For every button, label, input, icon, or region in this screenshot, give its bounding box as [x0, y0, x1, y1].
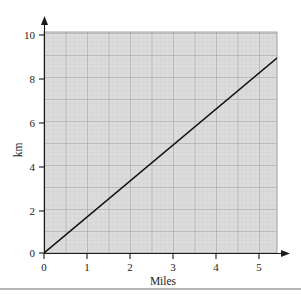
x-axis-arrow-icon — [281, 250, 290, 257]
y-tick-label-8: 8 — [30, 73, 36, 85]
x-axis: 0 1 2 3 4 5 Miles — [41, 250, 290, 287]
x-tick-label-5: 5 — [256, 261, 262, 273]
grid-major-lines — [44, 32, 277, 253]
y-tick-label-10: 10 — [24, 29, 36, 41]
x-tick-label-0: 0 — [41, 261, 47, 273]
x-tick-label-4: 4 — [213, 261, 219, 273]
y-tick-label-2: 2 — [30, 205, 36, 217]
y-tick-label-0: 0 — [30, 247, 36, 259]
y-axis-title: km — [12, 143, 24, 158]
x-tick-label-1: 1 — [84, 261, 90, 273]
page-divider-rule — [0, 288, 301, 290]
y-axis-arrow-icon — [41, 16, 48, 25]
plot-area — [44, 32, 277, 253]
y-axis: 10 8 6 4 2 0 km — [12, 16, 48, 259]
x-tick-label-3: 3 — [170, 261, 176, 273]
y-tick-label-4: 4 — [30, 161, 36, 173]
x-tick-label-2: 2 — [127, 261, 133, 273]
x-axis-title: Miles — [150, 275, 177, 287]
miles-to-km-line-chart: 10 8 6 4 2 0 km 0 1 2 3 4 5 Miles — [0, 0, 301, 297]
y-tick-label-6: 6 — [30, 117, 36, 129]
conversion-graph-figure: 10 8 6 4 2 0 km 0 1 2 3 4 5 Miles — [0, 0, 301, 297]
